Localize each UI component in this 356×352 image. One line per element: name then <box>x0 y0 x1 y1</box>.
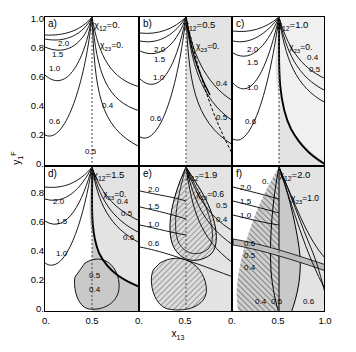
y-tick: 0.6 <box>18 217 44 227</box>
curve-label: 0.5 <box>271 297 282 306</box>
curve-label: 0.6 <box>123 233 134 242</box>
figure-root: y1F 1.0 0.8 0.6 0.4 0.2 0. 0.8 0.6 0.4 0… <box>0 0 356 352</box>
curve-label: 1.0 <box>148 220 159 229</box>
curve-label: 0.4 <box>117 197 128 206</box>
y-tick: 0.4 <box>18 246 44 256</box>
x-tick: 0.5 <box>271 316 284 326</box>
panel-b-chi12: χ12=0.5 <box>184 19 215 32</box>
curve-label: 2.0 <box>247 45 258 54</box>
panel-f: f) χ12=2.0 χ23=1.0 2.0 1.5 1.0 0.6 0.5 0… <box>232 166 325 312</box>
panel-a-chi23: χ23=0. <box>100 40 123 52</box>
x-tick: 0.5 <box>178 316 191 326</box>
y-tick: 0. <box>18 159 44 169</box>
curve-label: 0.6 <box>49 117 60 126</box>
y-tick: 0.6 <box>18 72 44 82</box>
curve-label: 1.5 <box>52 50 63 59</box>
panel-label-c: c) <box>236 18 244 29</box>
panel-e-chi12: χ12=1.9 <box>186 169 217 182</box>
curve-label: 0.5 <box>85 147 96 156</box>
curve-label: 1.5 <box>240 197 251 206</box>
x-axis-label: x13 <box>0 328 356 342</box>
curve-label: 0.4 <box>216 215 227 224</box>
panel-b: b) χ12=0.5 χ23=0. 2.0 1.5 1.0 0.6 0.4 0.… <box>139 16 232 166</box>
y-tick: 0.4 <box>18 101 44 111</box>
panel-f-chi12: χ12=2.0 <box>279 169 310 182</box>
curve-label: 2.0 <box>154 45 165 54</box>
panel-label-f: f) <box>236 168 242 179</box>
panel-label-a: a) <box>48 18 57 29</box>
curve-label: 1.0 <box>49 64 60 73</box>
curve-label: 2.0 <box>148 185 159 194</box>
panel-label-b: b) <box>143 18 152 29</box>
curve-label: 0.6 <box>148 239 159 248</box>
panel-b-plot <box>140 17 232 166</box>
curve-label: 1.5 <box>56 217 67 226</box>
curve-label: 1.0 <box>56 249 67 258</box>
panel-e: e) χ12=1.9 χ23=0.6 2.0 1.5 1.0 0.6 0.5 0… <box>139 166 232 312</box>
curve-label: 0.6 <box>150 114 161 123</box>
panel-c-chi23: χ23=0. <box>289 42 312 54</box>
y-tick: 0.8 <box>18 43 44 53</box>
curve-label: 2.0 <box>53 197 64 206</box>
x-axis: 0. 0.5 0. 0.5 0. 0.5 1.0 <box>0 312 356 328</box>
curve-label: 0.4 <box>89 285 100 294</box>
panel-d: d) χ12=1.5 χ23=0. 2.0 1.5 1.0 0.4 0.5 0.… <box>44 166 139 312</box>
curve-label: 0.5 <box>89 271 100 280</box>
y-tick: 1.0 <box>18 14 44 24</box>
curve-label: 0. <box>262 177 269 186</box>
curve-label: 0.4 <box>244 263 255 272</box>
x-tick: 0.5 <box>85 316 98 326</box>
curve-label: 0.4 <box>102 101 113 110</box>
panel-f-chi23: χ23=1.0 <box>291 193 319 205</box>
curve-label: 1.0 <box>153 73 164 82</box>
curve-label: 1.5 <box>148 202 159 211</box>
curve-label: 0.5 <box>244 251 255 260</box>
panel-c: c) χ12=1.0 χ23=0. 2.0 1.5 1.0 0.6 0.4 0.… <box>232 16 325 166</box>
curve-label: 0.5 <box>216 201 227 210</box>
curve-label: 0.6 <box>245 117 256 126</box>
y-tick: 0.2 <box>18 275 44 285</box>
x-tick: 0. <box>135 316 143 326</box>
panel-d-chi12: χ12=1.5 <box>93 169 124 182</box>
panel-a: a) χ12=0. χ23=0. 2.0 1.5 1.0 0.6 0.4 0.5 <box>44 16 139 166</box>
curve-label: 1.5 <box>247 58 258 67</box>
panel-a-chi12: χ12=0. <box>94 19 120 32</box>
panel-e-chi23: χ23=0.6 <box>196 189 224 201</box>
curve-label: 2.0 <box>240 183 251 192</box>
panel-b-chi23: χ23=0. <box>196 41 219 53</box>
panel-label-e: e) <box>143 168 152 179</box>
curve-label: 1.0 <box>247 83 258 92</box>
curve-label: 0.5 <box>309 65 320 74</box>
panel-c-chi12: χ12=1.0 <box>277 19 308 32</box>
y-tick: 0.2 <box>18 130 44 140</box>
curve-label: 1.0 <box>240 211 251 220</box>
curve-label: 0.4 <box>255 297 266 306</box>
y-tick: 0.8 <box>18 188 44 198</box>
curve-label: 0.5 <box>121 209 132 218</box>
x-tick: 1.0 <box>318 316 331 326</box>
x-tick: 0. <box>228 316 236 326</box>
curve-label: 0.6 <box>244 239 255 248</box>
x-tick: 0. <box>42 316 50 326</box>
curve-label: 0.5 <box>216 113 227 122</box>
panel-label-d: d) <box>48 168 57 179</box>
curve-label: 2.0 <box>58 39 69 48</box>
curve-label: 0.4 <box>307 53 318 62</box>
curve-label: 0.4 <box>216 79 227 88</box>
curve-label: 1.5 <box>154 55 165 64</box>
curve-label: 0.6 <box>303 297 314 306</box>
